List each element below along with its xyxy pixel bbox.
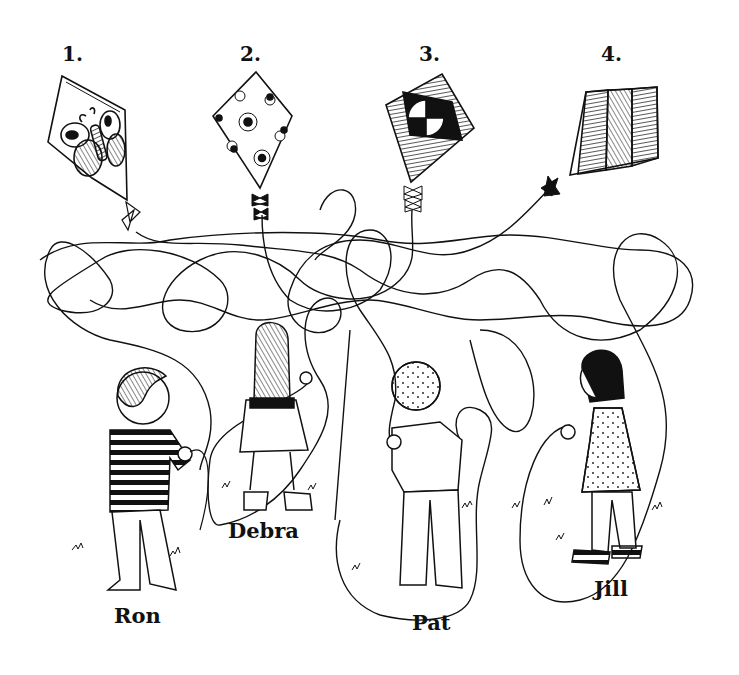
kite-number-3: 3. — [419, 42, 440, 66]
child-name-pat: Pat — [412, 610, 451, 635]
kite-string-maze-puzzle: 1. 2. 3. 4. Ron Debra Pat Jill — [0, 0, 739, 675]
kite-3-checkered-circle — [386, 74, 474, 212]
kite-number-2: 2. — [240, 42, 261, 66]
child-name-debra: Debra — [228, 518, 299, 543]
child-name-ron: Ron — [114, 603, 161, 628]
puzzle-illustration — [0, 0, 739, 675]
child-debra — [240, 323, 312, 510]
kite-2-flowers — [213, 72, 292, 220]
child-pat — [387, 362, 462, 588]
kite-number-4: 4. — [601, 42, 622, 66]
kite-4-striped — [541, 87, 658, 196]
child-name-jill: Jill — [594, 576, 628, 601]
child-ron — [108, 368, 208, 590]
kite-number-1: 1. — [62, 42, 83, 66]
child-jill — [561, 350, 642, 564]
kite-1-butterfly — [48, 76, 140, 230]
